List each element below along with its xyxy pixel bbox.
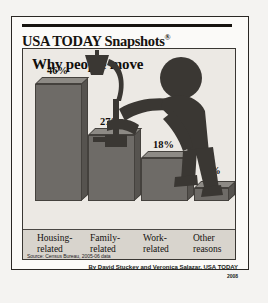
category-line-2: related bbox=[37, 244, 63, 254]
masthead-brand: USA TODAY Snapshots bbox=[22, 33, 165, 49]
category-line-2: reasons bbox=[193, 244, 222, 254]
category-line-2: related bbox=[90, 244, 116, 254]
bar-other-reasons bbox=[194, 181, 229, 201]
category-label-housing-related: Housing- related bbox=[37, 233, 72, 254]
plot-area: 46% 27% 18% bbox=[23, 77, 235, 231]
bar-side-face bbox=[134, 129, 141, 201]
snapshot-graphic: USA TODAY Snapshots® Why people move 46% bbox=[0, 0, 268, 303]
bar-work-related bbox=[141, 151, 188, 201]
masthead-rule bbox=[22, 24, 232, 27]
snapshot-card: USA TODAY Snapshots® Why people move 46% bbox=[11, 16, 249, 270]
byline-year: 2008 bbox=[227, 273, 238, 279]
masthead-title: USA TODAY Snapshots® bbox=[22, 28, 236, 47]
bar-housing-related bbox=[35, 77, 82, 201]
bar-front-face bbox=[141, 158, 188, 201]
bar-side-face bbox=[81, 78, 88, 201]
byline: By David Stuckey and Veronica Salazar, U… bbox=[88, 264, 238, 270]
category-line-1: Other bbox=[193, 233, 215, 243]
category-line-1: Work- bbox=[143, 233, 167, 243]
bar-front-face bbox=[35, 84, 82, 201]
registered-trademark-icon: ® bbox=[165, 33, 171, 42]
bar-value-work-related: 18% bbox=[153, 139, 174, 150]
chart-panel: Why people move 46% 27% bbox=[22, 48, 236, 260]
bar-value-housing-related: 46% bbox=[47, 65, 68, 76]
category-label-other-reasons: Other reasons bbox=[193, 233, 222, 254]
bar-front-face bbox=[88, 135, 135, 201]
bar-family-related bbox=[88, 128, 135, 201]
bar-value-other-reasons: 8% bbox=[205, 165, 221, 176]
bar-front-face bbox=[194, 188, 229, 201]
category-line-2: related bbox=[143, 244, 169, 254]
category-line-1: Family- bbox=[90, 233, 120, 243]
bar-value-family-related: 27% bbox=[100, 116, 121, 127]
category-line-1: Housing- bbox=[37, 233, 72, 243]
category-label-family-related: Family- related bbox=[90, 233, 120, 254]
source-note: Source: Census Bureau, 2005-06 data bbox=[27, 253, 111, 259]
category-label-work-related: Work- related bbox=[143, 233, 169, 254]
category-axis: Housing- related Family- related Work- r… bbox=[23, 229, 236, 259]
bar-side-face bbox=[187, 152, 194, 201]
